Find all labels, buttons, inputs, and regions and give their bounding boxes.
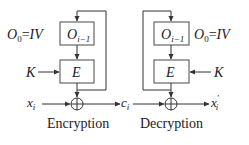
dec-cipher-box: E <box>154 60 189 83</box>
dec-register-box: Oi−1 <box>154 22 189 45</box>
dec-key-label: K <box>213 65 224 80</box>
enc-xor-icon <box>71 98 83 110</box>
dec-cipher-label: E <box>165 65 175 80</box>
enc-caption: Encryption <box>47 116 109 131</box>
enc-iv-label: O0=IV <box>7 27 44 44</box>
dec-output-label: x′i <box>210 93 220 112</box>
enc-cipher-box: E <box>60 60 94 83</box>
dec-xor-icon <box>165 98 177 110</box>
encryption-section: Oi−1 E O0=IV K xi Encryption <box>7 11 120 131</box>
enc-cipher-label: E <box>71 65 81 80</box>
enc-key-label: K <box>25 65 36 80</box>
enc-input-label: xi <box>26 95 36 112</box>
decryption-section: Oi−1 E O0=IV K x′i Decryption <box>140 11 231 131</box>
ofb-diagram: Oi−1 E O0=IV K xi Encryption ci <box>0 0 249 145</box>
dec-caption: Decryption <box>140 116 203 131</box>
diagram-canvas: Oi−1 E O0=IV K xi Encryption ci <box>0 0 249 145</box>
ciphertext-label: ci <box>121 95 130 112</box>
dec-iv-label: O0=IV <box>194 27 231 44</box>
enc-register-box: Oi−1 <box>60 22 94 45</box>
